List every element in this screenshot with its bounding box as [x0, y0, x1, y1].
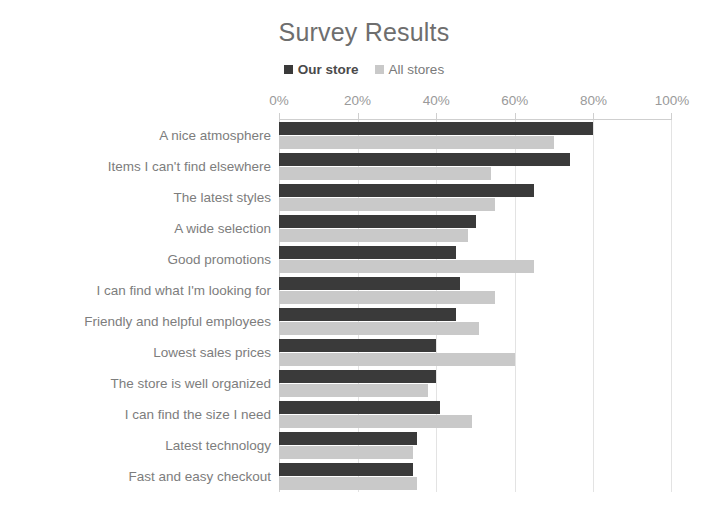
bar-row: [279, 275, 672, 306]
bar-all-stores[interactable]: [279, 322, 479, 335]
bar-our-store[interactable]: [279, 401, 440, 414]
category-label: Lowest sales prices: [0, 345, 271, 361]
x-tick-label: 40%: [423, 93, 450, 108]
plot-area: [279, 120, 672, 492]
chart-legend: Our store All stores: [0, 62, 728, 77]
legend-swatch-our-store: [284, 65, 293, 74]
bar-row: [279, 213, 672, 244]
category-label: A wide selection: [0, 221, 271, 237]
bar-row: [279, 368, 672, 399]
x-tick-label: 20%: [344, 93, 371, 108]
bar-our-store[interactable]: [279, 308, 456, 321]
bar-all-stores[interactable]: [279, 353, 515, 366]
category-label: The store is well organized: [0, 376, 271, 392]
bar-our-store[interactable]: [279, 215, 476, 228]
bar-all-stores[interactable]: [279, 291, 495, 304]
y-axis-category-labels: A nice atmosphereItems I can't find else…: [0, 120, 271, 492]
bar-our-store[interactable]: [279, 370, 436, 383]
bar-our-store[interactable]: [279, 122, 593, 135]
x-axis-tick-labels: 0%20%40%60%80%100%: [279, 93, 672, 111]
category-label: Latest technology: [0, 438, 271, 454]
bar-all-stores[interactable]: [279, 167, 491, 180]
bar-all-stores[interactable]: [279, 446, 413, 459]
legend-item-all-stores[interactable]: All stores: [375, 62, 445, 77]
category-label: Good promotions: [0, 252, 271, 268]
category-label: The latest styles: [0, 190, 271, 206]
legend-swatch-all-stores: [375, 65, 384, 74]
bar-our-store[interactable]: [279, 246, 456, 259]
category-label: Friendly and helpful employees: [0, 314, 271, 330]
bar-our-store[interactable]: [279, 463, 413, 476]
bar-row: [279, 399, 672, 430]
bar-row: [279, 244, 672, 275]
bar-all-stores[interactable]: [279, 384, 428, 397]
bar-our-store[interactable]: [279, 153, 570, 166]
x-tick-label: 100%: [655, 93, 690, 108]
bar-our-store[interactable]: [279, 432, 417, 445]
bar-row: [279, 120, 672, 151]
legend-label-our-store: Our store: [298, 62, 359, 77]
survey-results-bar-chart: Survey Results Our store All stores 0%20…: [0, 0, 728, 520]
bar-all-stores[interactable]: [279, 477, 417, 490]
bar-all-stores[interactable]: [279, 136, 554, 149]
chart-title: Survey Results: [0, 18, 728, 47]
category-label: Fast and easy checkout: [0, 469, 271, 485]
legend-label-all-stores: All stores: [389, 62, 445, 77]
bar-our-store[interactable]: [279, 339, 436, 352]
bar-all-stores[interactable]: [279, 229, 468, 242]
bar-rows: [279, 120, 672, 492]
bar-all-stores[interactable]: [279, 198, 495, 211]
bar-row: [279, 306, 672, 337]
bar-row: [279, 430, 672, 461]
bar-all-stores[interactable]: [279, 415, 472, 428]
category-label: I can find what I'm looking for: [0, 283, 271, 299]
x-tick-label: 60%: [501, 93, 528, 108]
bar-row: [279, 182, 672, 213]
bar-all-stores[interactable]: [279, 260, 534, 273]
bar-our-store[interactable]: [279, 277, 460, 290]
bar-our-store[interactable]: [279, 184, 534, 197]
x-tick-label: 80%: [580, 93, 607, 108]
x-tick-label: 0%: [269, 93, 289, 108]
legend-item-our-store[interactable]: Our store: [284, 62, 359, 77]
category-label: I can find the size I need: [0, 407, 271, 423]
category-label: Items I can't find elsewhere: [0, 159, 271, 175]
bar-row: [279, 151, 672, 182]
category-label: A nice atmosphere: [0, 128, 271, 144]
bar-row: [279, 461, 672, 492]
bar-row: [279, 337, 672, 368]
